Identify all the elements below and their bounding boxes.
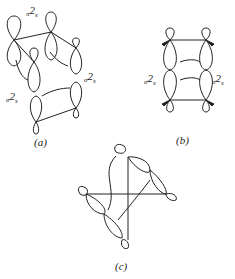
- caption-a: (a): [34, 136, 47, 148]
- panel-c-drawing: [78, 144, 176, 248]
- caption-b: (b): [176, 134, 189, 146]
- label-b-sigma2s-left: σ2s: [144, 72, 156, 87]
- caption-c: (c): [115, 260, 127, 272]
- label-a-sigma2s-right: σ2s: [84, 70, 96, 85]
- label-a-sigma2s-left: σ2s: [6, 90, 18, 105]
- panel-a-drawing: [7, 12, 81, 134]
- label-b-sigma2s-right: σ2s: [212, 72, 224, 87]
- label-a-pi2s: π2s: [26, 4, 38, 19]
- panel-b-drawing: [162, 28, 214, 112]
